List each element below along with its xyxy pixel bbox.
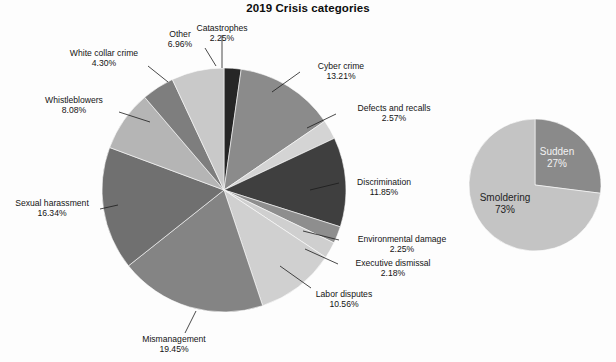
crisis-categories-slices <box>102 68 346 312</box>
label-sexual-harassment-text: Sexual harassment <box>15 198 89 208</box>
label-executive-dismissal-text: Executive dismissal <box>356 258 431 268</box>
label-cyber-crime-text: Cyber crime <box>318 61 364 71</box>
label-cyber-crime: Cyber crime 13.21% <box>301 61 381 82</box>
label-white-collar-crime-value: 4.30% <box>54 58 154 68</box>
label-defects-and-recalls-value: 2.57% <box>338 113 450 123</box>
label-mismanagement: Mismanagement 19.45% <box>124 334 224 355</box>
label-labor-disputes-text: Labor disputes <box>316 289 372 299</box>
crisis-onset-slices <box>469 119 601 251</box>
label-sudden-value: 27% <box>522 158 592 170</box>
label-discrimination: Discrimination 11.85% <box>341 177 427 198</box>
chart-canvas: 2019 Crisis categories Catastrophes 2.25… <box>0 0 616 362</box>
label-sexual-harassment: Sexual harassment 16.34% <box>3 198 101 219</box>
label-other-value: 6.96% <box>145 39 215 49</box>
label-whistleblowers-text: Whistleblowers <box>45 95 103 105</box>
label-executive-dismissal-value: 2.18% <box>341 268 445 278</box>
label-other: Other 6.96% <box>145 29 215 50</box>
label-labor-disputes: Labor disputes 10.56% <box>300 289 388 310</box>
label-discrimination-value: 11.85% <box>341 187 427 197</box>
label-mismanagement-text: Mismanagement <box>142 334 206 344</box>
label-sexual-harassment-value: 16.34% <box>3 208 101 218</box>
label-smoldering: Smoldering 73% <box>462 192 548 216</box>
label-smoldering-text: Smoldering <box>480 192 531 203</box>
label-white-collar-crime: White collar crime 4.30% <box>54 48 154 69</box>
label-labor-disputes-value: 10.56% <box>300 299 388 309</box>
label-environmental-damage-value: 2.25% <box>341 244 463 254</box>
label-other-text: Other <box>169 29 191 39</box>
label-defects-and-recalls: Defects and recalls 2.57% <box>338 103 450 124</box>
label-environmental-damage-text: Environmental damage <box>358 234 446 244</box>
label-whistleblowers-value: 8.08% <box>30 105 118 115</box>
label-executive-dismissal: Executive dismissal 2.18% <box>341 258 445 279</box>
label-defects-and-recalls-text: Defects and recalls <box>357 103 430 113</box>
label-environmental-damage: Environmental damage 2.25% <box>341 234 463 255</box>
label-white-collar-crime-text: White collar crime <box>70 48 138 58</box>
label-smoldering-value: 73% <box>462 204 548 216</box>
label-discrimination-text: Discrimination <box>357 177 411 187</box>
label-cyber-crime-value: 13.21% <box>301 71 381 81</box>
label-sudden-text: Sudden <box>540 146 574 157</box>
label-sudden: Sudden 27% <box>522 146 592 170</box>
label-mismanagement-value: 19.45% <box>124 344 224 354</box>
label-whistleblowers: Whistleblowers 8.08% <box>30 95 118 116</box>
